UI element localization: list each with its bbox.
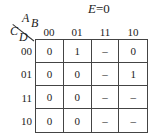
- kmap-cell: 0: [36, 109, 64, 132]
- kmap-cell: –: [92, 86, 120, 109]
- row-header: 01: [12, 68, 32, 80]
- kmap-cell: –: [92, 109, 120, 132]
- kmap-cell: 0: [64, 86, 92, 109]
- column-header: 10: [119, 26, 147, 38]
- kmap-cell: 0: [64, 109, 92, 132]
- kmap-cell: 0: [36, 40, 64, 63]
- column-header: 00: [35, 26, 63, 38]
- kmap-cell: 1: [64, 40, 92, 63]
- column-header: 01: [63, 26, 91, 38]
- row-header: 10: [12, 115, 32, 127]
- title-value: =0: [96, 1, 110, 16]
- kmap-cell: –: [119, 86, 147, 109]
- kmap-cell: 1: [119, 63, 147, 86]
- corner-label-c: C: [10, 25, 18, 37]
- column-header: 11: [91, 26, 119, 38]
- karnaugh-map-grid: 0 1 – 0 0 0 – 1 0 0 – – 0 0 – –: [35, 39, 148, 133]
- title-variable: E: [88, 1, 96, 16]
- corner-label-a: A: [22, 12, 29, 24]
- kmap-cell: –: [119, 109, 147, 132]
- kmap-cell: –: [92, 63, 120, 86]
- kmap-cell: 0: [36, 86, 64, 109]
- corner-label-d: D: [19, 31, 28, 43]
- kmap-cell: –: [92, 40, 120, 63]
- kmap-cell: 0: [36, 63, 64, 86]
- row-header: 11: [12, 92, 32, 104]
- kmap-cell: 0: [64, 63, 92, 86]
- kmap-title: E=0: [88, 2, 110, 16]
- row-header: 00: [12, 45, 32, 57]
- kmap-cell: 0: [119, 40, 147, 63]
